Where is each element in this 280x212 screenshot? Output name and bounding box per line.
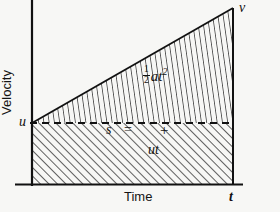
- annotation-at-term: at: [151, 68, 163, 84]
- axis-label-final-velocity: v: [239, 1, 245, 15]
- fraction-one-half: 12: [143, 65, 150, 85]
- annotation-half-at-squared: 12at2: [143, 65, 167, 85]
- annotation-ut: ut: [148, 143, 159, 157]
- axis-label-initial-velocity: u: [19, 115, 26, 129]
- y-axis-title: Velocity: [0, 70, 13, 115]
- axis-tick-label-time-t: t: [229, 190, 233, 204]
- annotation-exponent: 2: [162, 66, 167, 77]
- velocity-time-graph: [0, 0, 280, 212]
- equation-equals-sign: =: [124, 123, 132, 137]
- fraction-denominator: 2: [143, 76, 150, 86]
- region-ut-rectangle: [32, 123, 233, 184]
- equation-lhs-s: s: [106, 123, 111, 137]
- x-axis-title: Time: [124, 190, 152, 203]
- equation-plus-sign: +: [160, 123, 168, 138]
